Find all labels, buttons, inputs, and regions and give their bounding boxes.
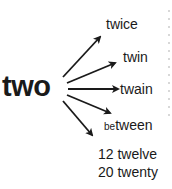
arrow-to-numbers xyxy=(63,101,92,135)
root-word: two xyxy=(2,72,50,101)
arrow-to-between xyxy=(67,95,110,113)
leaf-twice: twice xyxy=(106,17,138,31)
between-prefix: be xyxy=(104,121,115,132)
leaf-twain: twain xyxy=(120,82,153,96)
twelve-number: 12 xyxy=(98,146,114,162)
leaf-twin: twin xyxy=(123,50,148,64)
twenty-word: twenty xyxy=(117,164,157,180)
twenty-number: 20 xyxy=(98,164,114,180)
leaf-between: between xyxy=(104,118,152,132)
leaf-twelve: 12 twelve xyxy=(98,147,157,161)
twelve-word: twelve xyxy=(117,146,157,162)
page-edge-marks xyxy=(168,10,170,120)
leaf-twenty: 20 twenty xyxy=(98,165,158,179)
between-root: tween xyxy=(115,117,152,133)
